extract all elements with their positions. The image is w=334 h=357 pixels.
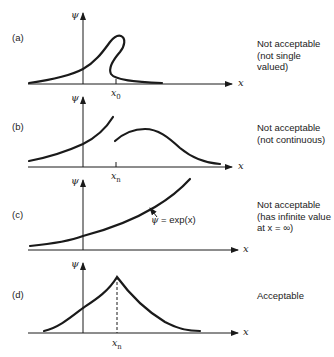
panel-d-plot xyxy=(28,263,238,333)
panel-a-verdict: Not acceptable (not single valued) xyxy=(257,38,334,73)
panel-d-x-label: x xyxy=(243,326,249,337)
panel-b-plot xyxy=(28,97,232,167)
panel-a-letter: (a) xyxy=(12,32,24,43)
panel-b-verdict: Not acceptable (not continuous) xyxy=(257,122,325,145)
panel-b-letter: (b) xyxy=(12,121,24,132)
panel-d-curve-cusp xyxy=(44,277,200,331)
panel-c-curve-exp xyxy=(30,179,190,246)
panel-b-curve-left xyxy=(29,117,113,161)
panel-c-curve-annotation: ψ = exp(x) xyxy=(151,214,196,225)
panel-c-letter: (c) xyxy=(12,209,23,220)
panel-d-xn-label: xn xyxy=(112,337,122,351)
panel-d-verdict: Acceptable xyxy=(257,290,304,302)
panel-a-plot xyxy=(28,13,232,84)
panel-b-psi-label: ψ xyxy=(71,92,79,103)
panel-d-letter: (d) xyxy=(12,289,24,300)
panel-b-xn-label: xn xyxy=(111,170,121,184)
panel-d-psi-label: ψ xyxy=(71,258,79,269)
panel-a-x0-label: x0 xyxy=(111,87,121,101)
panel-c-psi-label: ψ xyxy=(71,175,79,186)
panel-a-x-label: x xyxy=(238,77,244,88)
panel-b-x-label: x xyxy=(238,160,244,171)
panel-c-verdict: Not acceptable (has infinite value at x … xyxy=(257,199,331,234)
panel-b-curve-right xyxy=(115,129,220,164)
panel-a-psi-label: ψ xyxy=(71,9,79,20)
panel-a-curve-multivalued xyxy=(29,36,162,83)
panel-c-plot xyxy=(28,179,238,250)
panel-c-x-label: x xyxy=(243,243,249,254)
